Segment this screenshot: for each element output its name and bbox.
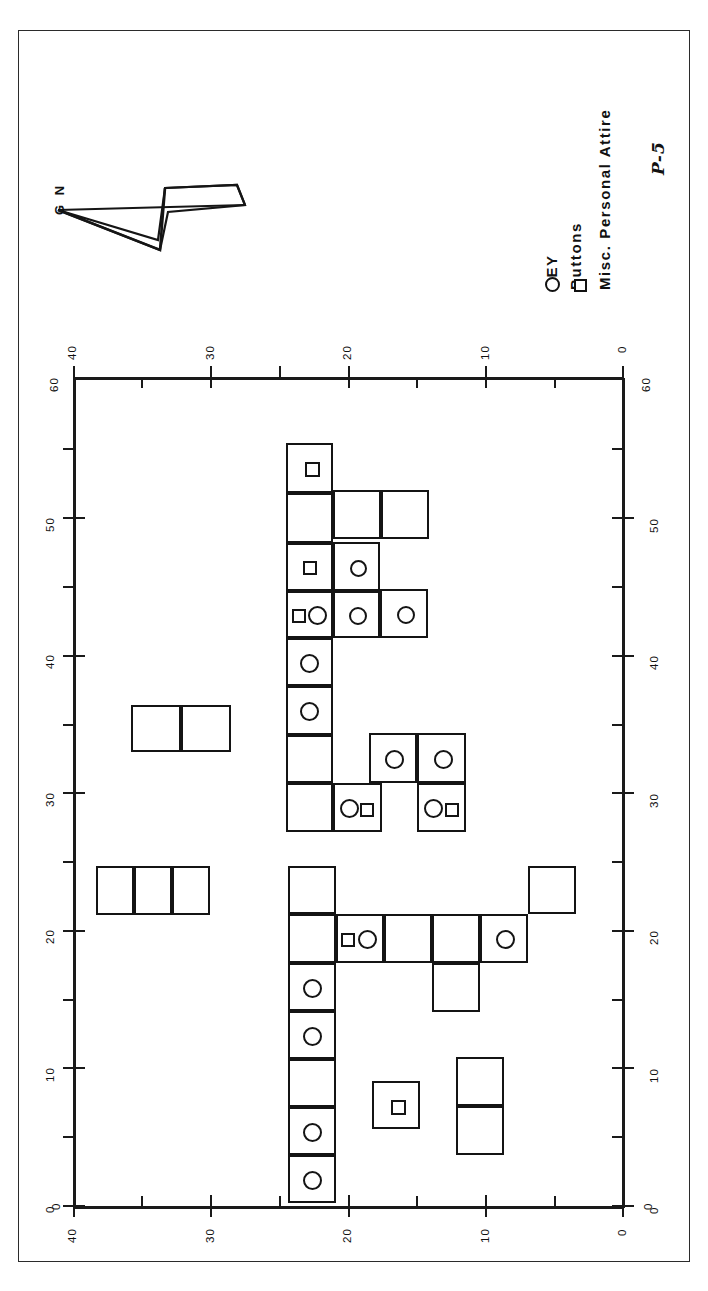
misc-attire-artifact-marker: [360, 803, 374, 817]
tick-top-major: [485, 366, 487, 388]
tick-bottom-minor: [554, 1196, 556, 1207]
excavation-unit-cell: [333, 783, 382, 832]
excavation-unit-cell: [417, 783, 466, 832]
button-artifact-marker: [303, 979, 322, 998]
button-artifact-marker: [300, 702, 319, 721]
tick-top-major: [348, 366, 350, 388]
tick-right-minor: [612, 999, 623, 1001]
axis-right-tick-label: 10: [648, 1068, 660, 1083]
tick-bottom-major: [485, 1195, 487, 1217]
excavation-unit-cell: [372, 1081, 420, 1129]
misc-attire-artifact-marker: [305, 462, 320, 477]
excavation-unit-cell: [288, 1107, 336, 1155]
button-artifact-marker: [303, 1171, 322, 1190]
excavation-unit-cell: [96, 866, 134, 915]
excavation-unit-cell: [131, 705, 181, 752]
misc-attire-artifact-marker: [303, 561, 317, 575]
excavation-unit-cell: [286, 443, 333, 493]
excavation-unit-cell: [380, 589, 428, 638]
tick-left-minor: [63, 724, 74, 726]
axis-top-left-end-label: 60: [48, 377, 60, 392]
tick-left-major: [63, 930, 85, 932]
excavation-unit-cell: [288, 866, 336, 914]
button-artifact-marker: [358, 930, 377, 949]
excavation-unit-cell: [286, 638, 333, 686]
excavation-unit-cell: [432, 914, 480, 963]
axis-bottom-tick-label: 10: [479, 1228, 491, 1243]
excavation-unit-cell: [288, 1059, 336, 1107]
tick-left-minor: [63, 999, 74, 1001]
excavation-unit-cell: [381, 490, 429, 539]
axis-right-tick-label: 30: [648, 793, 660, 808]
axis-left-tick-label: 30: [44, 792, 56, 807]
tick-left-major: [63, 655, 85, 657]
excavation-unit-cell: [288, 1155, 336, 1203]
tick-right-minor: [612, 724, 623, 726]
tick-right-minor: [612, 448, 623, 450]
button-artifact-marker: [303, 1027, 322, 1046]
tick-left-minor: [63, 1136, 74, 1138]
axis-top-tick-label: 40: [66, 345, 78, 360]
axis-left-tick-label: 40: [44, 654, 56, 669]
excavation-unit-cell: [286, 543, 333, 591]
button-artifact-marker: [300, 654, 319, 673]
button-artifact-marker: [349, 607, 367, 625]
tick-bottom-minor: [416, 1196, 418, 1207]
tick-right-minor: [612, 861, 623, 863]
axis-left-tick-label: 10: [44, 1067, 56, 1082]
axis-bottom-tick-label: 40: [66, 1228, 78, 1243]
figure-caption: P-5: [648, 141, 668, 175]
axis-top-tick-label: 20: [341, 345, 353, 360]
tick-left-major: [63, 517, 85, 519]
misc-attire-artifact-marker: [391, 1100, 406, 1115]
excavation-unit-cell: [432, 963, 480, 1012]
excavation-unit-cell: [333, 591, 380, 638]
north-arrow-label: G N: [52, 183, 67, 215]
tick-bottom-minor: [279, 1196, 281, 1207]
tick-right-major: [612, 1067, 634, 1069]
tick-top-minor: [416, 377, 418, 388]
axis-left-tick-label: 0: [44, 1206, 56, 1214]
axis-left-tick-label: 20: [44, 929, 56, 944]
excavation-unit-cell: [288, 963, 336, 1011]
excavation-unit-cell: [456, 1057, 504, 1106]
button-artifact-marker: [496, 930, 515, 949]
axis-right-tick-label: 0: [648, 1207, 660, 1215]
excavation-map-canvas: G N 40 30 20 10 0 60 60 40 30 20 10 0 0 …: [0, 0, 708, 1291]
button-artifact-marker: [308, 606, 327, 625]
misc-attire-artifact-marker: [445, 803, 459, 817]
excavation-unit-cell: [288, 914, 336, 963]
excavation-unit-cell: [172, 866, 210, 915]
excavation-unit-cell: [286, 735, 333, 783]
button-artifact-marker: [434, 750, 453, 769]
axis-right-tick-label: 50: [648, 518, 660, 533]
tick-top-minor: [554, 377, 556, 388]
misc-attire-artifact-marker: [341, 933, 355, 947]
tick-right-minor: [612, 1136, 623, 1138]
axis-bottom-tick-label: 0: [616, 1229, 628, 1237]
axis-top-tick-label: 10: [479, 345, 491, 360]
legend-square-icon: [574, 279, 587, 292]
tick-top-minor: [141, 377, 143, 388]
tick-top-major: [210, 366, 212, 388]
axis-right-tick-label: 40: [648, 655, 660, 670]
tick-bottom-major: [210, 1195, 212, 1217]
tick-right-major: [612, 930, 634, 932]
misc-attire-artifact-marker: [292, 609, 306, 623]
tick-left-major: [63, 1205, 85, 1207]
excavation-unit-cell: [286, 493, 333, 543]
tick-top-minor: [279, 366, 281, 377]
tick-left-major: [63, 792, 85, 794]
tick-right-minor: [612, 586, 623, 588]
excavation-unit-cell: [384, 914, 432, 963]
button-artifact-marker: [385, 750, 404, 769]
button-artifact-marker: [397, 606, 415, 624]
excavation-unit-cell: [333, 490, 381, 539]
excavation-unit-cell: [288, 1011, 336, 1059]
north-arrow-icon: [40, 150, 290, 280]
axis-top-right-end-label: 60: [640, 377, 652, 392]
button-artifact-marker: [424, 799, 443, 818]
tick-left-major: [63, 1067, 85, 1069]
tick-right-major: [612, 1205, 634, 1207]
excavation-unit-cell: [528, 866, 576, 914]
